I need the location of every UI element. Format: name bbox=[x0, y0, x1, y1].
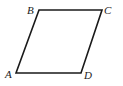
vertex-label-c: C bbox=[104, 4, 112, 16]
parallelogram-diagram: A B C D bbox=[0, 0, 123, 86]
vertex-label-d: D bbox=[83, 69, 92, 81]
vertex-label-b: B bbox=[27, 4, 34, 16]
vertex-label-a: A bbox=[4, 68, 12, 80]
parallelogram-abcd bbox=[16, 10, 102, 73]
